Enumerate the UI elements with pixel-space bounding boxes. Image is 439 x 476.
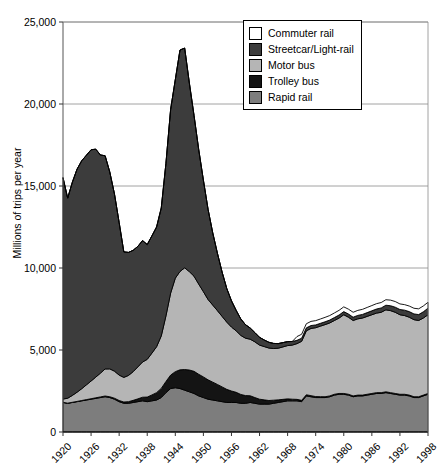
legend-item-label: Motor bus [268, 60, 315, 71]
x-tick-label: 1962 [239, 440, 270, 471]
x-tick-label: 1980 [323, 440, 354, 471]
legend-item-label: Streetcar/Light-rail [268, 44, 354, 55]
x-tick-label: 1938 [127, 440, 158, 471]
x-tick-label: 1932 [99, 440, 130, 471]
x-tick-label: 1974 [295, 440, 326, 471]
legend-item: Trolley bus [249, 73, 354, 89]
legend-swatch-icon [249, 91, 262, 104]
legend-swatch-icon [249, 75, 262, 88]
x-tick-label: 1998 [407, 440, 438, 471]
x-tick-label: 1956 [211, 440, 242, 471]
chart-legend: Commuter railStreetcar/Light-railMotor b… [243, 20, 362, 110]
legend-item-label: Rapid rail [268, 92, 312, 103]
x-tick-label: 1968 [267, 440, 298, 471]
legend-item-label: Trolley bus [268, 76, 319, 87]
x-tick-label: 1986 [351, 440, 382, 471]
legend-swatch-icon [249, 43, 262, 56]
x-tick-label: 1920 [42, 440, 73, 471]
x-tick-label: 1992 [379, 440, 410, 471]
x-tick-label: 1944 [155, 440, 186, 471]
x-tick-label: 1926 [70, 440, 101, 471]
legend-item: Motor bus [249, 57, 354, 73]
legend-item-label: Commuter rail [268, 28, 334, 39]
legend-swatch-icon [249, 59, 262, 72]
legend-item: Rapid rail [249, 89, 354, 105]
legend-swatch-icon [249, 27, 262, 40]
transit-ridership-chart: Millions of trips per year 05,00010,0001… [0, 0, 439, 476]
legend-item: Commuter rail [249, 25, 354, 41]
x-axis-ticks: 1920192619321938194419501956196219681974… [0, 0, 439, 476]
x-tick-label: 1950 [183, 440, 214, 471]
legend-item: Streetcar/Light-rail [249, 41, 354, 57]
